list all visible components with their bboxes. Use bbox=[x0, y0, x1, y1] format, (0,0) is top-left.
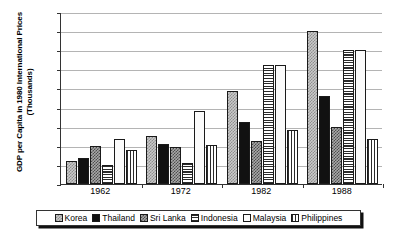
bar-group bbox=[222, 13, 303, 184]
bar-indonesia-1988 bbox=[343, 50, 354, 184]
legend-swatch-philippines-icon bbox=[291, 214, 299, 222]
bar-malaysia-1982 bbox=[275, 65, 286, 184]
legend-label-malaysia: Malaysia bbox=[253, 213, 287, 223]
bar-indonesia-1962 bbox=[102, 165, 113, 184]
legend-swatch-malaysia-icon bbox=[243, 214, 251, 222]
y-axis-title: GDP per Capita in 1980 International Pri… bbox=[15, 0, 35, 187]
bar-thailand-1988 bbox=[319, 96, 330, 184]
legend-swatch-indonesia-icon bbox=[191, 214, 199, 222]
legend-swatch-korea-icon bbox=[55, 214, 63, 222]
bar-srilanka-1982 bbox=[251, 141, 262, 184]
bar-srilanka-1972 bbox=[170, 147, 181, 184]
legend-swatch-thailand-icon bbox=[92, 214, 100, 222]
bar-korea-1988 bbox=[307, 31, 318, 184]
legend-label-thailand: Thailand bbox=[102, 213, 135, 223]
plot-area: 050010001500200025003000350040004500 bbox=[60, 13, 382, 185]
bar-thailand-1962 bbox=[78, 158, 89, 184]
x-axis-label-1962: 1962 bbox=[60, 186, 141, 196]
bar-group bbox=[142, 13, 223, 184]
bar-malaysia-1962 bbox=[114, 139, 125, 184]
bar-philippines-1982 bbox=[287, 130, 298, 184]
bar-korea-1982 bbox=[227, 91, 238, 184]
y-axis-title-line2: (Thousands) bbox=[25, 0, 35, 187]
bar-chart: GDP per Capita in 1980 International Pri… bbox=[0, 0, 397, 241]
bar-group bbox=[61, 13, 142, 184]
legend-item-thailand[interactable]: Thailand bbox=[92, 213, 135, 223]
bar-indonesia-1972 bbox=[182, 163, 193, 184]
legend-label-korea: Korea bbox=[65, 213, 88, 223]
y-axis-title-line1: GDP per Capita in 1980 International Pri… bbox=[15, 12, 24, 172]
bar-srilanka-1962 bbox=[90, 146, 101, 184]
x-axis-label-1988: 1988 bbox=[302, 186, 383, 196]
legend-label-srilanka: Sri Lanka bbox=[150, 213, 186, 223]
bar-indonesia-1982 bbox=[263, 65, 274, 184]
x-axis-group-separator bbox=[383, 184, 384, 188]
bar-group bbox=[303, 13, 384, 184]
legend-item-indonesia[interactable]: Indonesia bbox=[191, 213, 238, 223]
bar-korea-1962 bbox=[66, 161, 77, 184]
legend-label-indonesia: Indonesia bbox=[201, 213, 238, 223]
legend-item-srilanka[interactable]: Sri Lanka bbox=[140, 213, 186, 223]
chart-legend: KoreaThailandSri LankaIndonesiaMalaysiaP… bbox=[36, 210, 361, 226]
bar-korea-1972 bbox=[146, 136, 157, 184]
bar-srilanka-1988 bbox=[331, 127, 342, 184]
legend-label-philippines: Philippines bbox=[301, 213, 342, 223]
legend-swatch-srilanka-icon bbox=[140, 214, 148, 222]
bar-philippines-1988 bbox=[367, 139, 378, 184]
x-axis-label-1972: 1972 bbox=[141, 186, 222, 196]
legend-item-philippines[interactable]: Philippines bbox=[291, 213, 342, 223]
bar-philippines-1972 bbox=[206, 145, 217, 184]
bar-thailand-1982 bbox=[239, 122, 250, 184]
bar-thailand-1972 bbox=[158, 144, 169, 184]
x-axis-label-1982: 1982 bbox=[221, 186, 302, 196]
legend-item-malaysia[interactable]: Malaysia bbox=[243, 213, 287, 223]
legend-item-korea[interactable]: Korea bbox=[55, 213, 88, 223]
bar-philippines-1962 bbox=[126, 150, 137, 184]
bar-malaysia-1972 bbox=[194, 111, 205, 184]
bar-malaysia-1988 bbox=[355, 50, 366, 184]
